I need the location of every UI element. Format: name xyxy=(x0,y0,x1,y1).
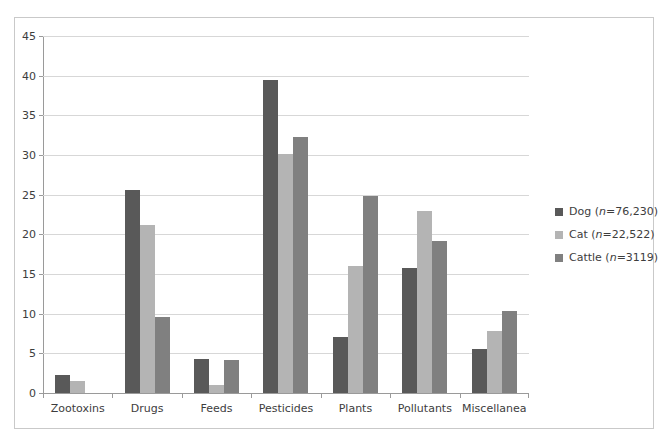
legend-label: Cattle (n=3119) xyxy=(569,252,658,263)
y-axis-tick-label: 45 xyxy=(22,31,36,42)
bar-cat-drugs xyxy=(140,225,155,393)
x-axis-tick-mark xyxy=(112,394,113,398)
bar-dog-plants xyxy=(333,337,348,393)
bar-group-drugs xyxy=(112,35,181,393)
bar-dog-drugs xyxy=(125,190,140,393)
x-axis-label-feeds: Feeds xyxy=(201,403,233,414)
gridline xyxy=(43,393,529,394)
x-axis-label-plants: Plants xyxy=(339,403,372,414)
bar-group-feeds xyxy=(182,35,251,393)
bar-group-zootoxins xyxy=(43,35,112,393)
legend-swatch-icon xyxy=(555,254,563,262)
bar-cat-pollutants xyxy=(417,211,432,393)
x-axis-tick-mark xyxy=(182,394,183,398)
x-axis-tick-mark xyxy=(321,394,322,398)
x-axis-tick-mark xyxy=(460,394,461,398)
bar-dog-zootoxins xyxy=(55,375,70,393)
x-axis-tick-mark xyxy=(390,394,391,398)
bar-group-plants xyxy=(321,35,390,393)
bar-cattle-pollutants xyxy=(432,241,447,393)
y-axis-tick-label: 40 xyxy=(22,70,36,81)
x-axis-label-drugs: Drugs xyxy=(131,403,164,414)
y-axis-tick-label: 35 xyxy=(22,110,36,121)
x-axis-label-pollutants: Pollutants xyxy=(398,403,452,414)
bar-group-pollutants xyxy=(390,35,459,393)
x-axis-tick-mark xyxy=(43,394,44,398)
legend-label: Dog (n=76,230) xyxy=(569,206,658,217)
bar-cattle-drugs xyxy=(155,317,170,393)
legend-item-dog[interactable]: Dog (n=76,230) xyxy=(555,200,670,223)
chart-figure: 454035302520151050 ZootoxinsDrugsFeedsPe… xyxy=(14,17,654,429)
bar-cat-pesticides xyxy=(278,154,293,393)
x-axis-label-zootoxins: Zootoxins xyxy=(51,403,105,414)
legend-swatch-icon xyxy=(555,231,563,239)
y-axis-tick-label: 5 xyxy=(29,348,36,359)
bar-group-miscellanea xyxy=(460,35,529,393)
bar-cat-feeds xyxy=(209,385,224,393)
bar-cat-zootoxins xyxy=(70,381,85,393)
y-axis-tick-label: 20 xyxy=(22,229,36,240)
legend-label: Cat (n=22,522) xyxy=(569,229,655,240)
bar-dog-pesticides xyxy=(263,80,278,393)
y-axis-tick-label: 10 xyxy=(22,308,36,319)
bar-dog-feeds xyxy=(194,359,209,393)
y-axis-tick-label: 30 xyxy=(22,150,36,161)
x-axis-tick-mark xyxy=(251,394,252,398)
bar-group-pesticides xyxy=(251,35,320,393)
bar-cattle-plants xyxy=(363,196,378,393)
legend-swatch-icon xyxy=(555,208,563,216)
y-axis-tick-label: 15 xyxy=(22,269,36,280)
bar-cat-miscellanea xyxy=(487,331,502,393)
bar-cattle-miscellanea xyxy=(502,311,517,393)
plot-area: 454035302520151050 ZootoxinsDrugsFeedsPe… xyxy=(43,36,529,394)
chart-legend: Dog (n=76,230)Cat (n=22,522)Cattle (n=31… xyxy=(555,200,670,269)
legend-item-cattle[interactable]: Cattle (n=3119) xyxy=(555,246,670,269)
bar-dog-miscellanea xyxy=(472,349,487,393)
x-axis-label-miscellanea: Miscellanea xyxy=(462,403,526,414)
bar-cattle-pesticides xyxy=(293,137,308,393)
bar-dog-pollutants xyxy=(402,268,417,393)
y-axis-tick-label: 25 xyxy=(22,189,36,200)
bar-cat-plants xyxy=(348,266,363,393)
legend-item-cat[interactable]: Cat (n=22,522) xyxy=(555,223,670,246)
bar-cattle-feeds xyxy=(224,360,239,393)
x-axis-tick-mark xyxy=(528,394,529,398)
y-axis-tick-label: 0 xyxy=(29,388,36,399)
x-axis-label-pesticides: Pesticides xyxy=(259,403,314,414)
